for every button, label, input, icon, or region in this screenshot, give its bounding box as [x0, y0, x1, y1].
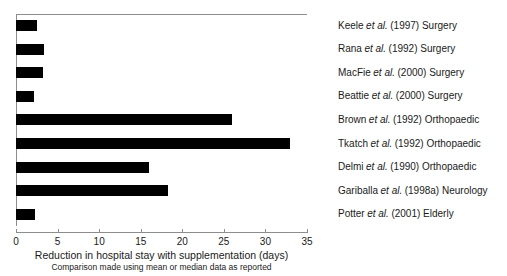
x-axis-title: Reduction in hospital stay with suppleme… [16, 249, 307, 262]
study-year-setting: (2001) Elderly [391, 208, 453, 220]
study-author: Delmi [338, 161, 364, 173]
x-axis-tick [265, 229, 266, 233]
bar-row [16, 85, 307, 109]
x-axis-tick-label: 20 [177, 236, 188, 248]
bar [16, 209, 35, 220]
x-axis-subtitle: Comparison made using mean or median dat… [16, 262, 307, 273]
bar-row [16, 179, 307, 203]
x-axis-tick [58, 229, 59, 233]
bar-row [16, 202, 307, 226]
study-author: Beattie [338, 90, 369, 102]
x-axis-tick [307, 229, 308, 233]
bar-row [16, 155, 307, 179]
bar [16, 185, 168, 196]
study-year-setting: (1998a) Neurology [405, 185, 488, 197]
study-author: Potter [338, 208, 365, 220]
study-year-setting: (1990) Orthopaedic [390, 161, 476, 173]
study-year-setting: (1992) Surgery [389, 43, 456, 55]
study-author: MacFie [338, 67, 371, 79]
plot-area [16, 14, 307, 226]
x-axis-tick [224, 229, 225, 233]
bar [16, 114, 232, 125]
x-axis-tick-label: 5 [55, 236, 61, 248]
study-year-setting: (2000) Surgery [397, 67, 464, 79]
study-etal: et al. [362, 43, 389, 55]
study-label: Potteret al.(2001) Elderly [338, 202, 507, 226]
bar-row [16, 108, 307, 132]
study-label: Gariballaet al.(1998a) Neurology [338, 179, 507, 203]
study-label: MacFieet al.(2000) Surgery [338, 61, 507, 85]
study-etal: et al. [378, 185, 405, 197]
study-label: Brownet al.(1992) Orthopaedic [338, 108, 507, 132]
x-axis-tick-label: 15 [135, 236, 146, 248]
study-label: Beattieet al.(2000) Surgery [338, 85, 507, 109]
study-label: Keeleet al.(1997) Surgery [338, 14, 507, 38]
x-axis-tick-label: 30 [260, 236, 271, 248]
x-axis-tick [16, 229, 17, 233]
study-author: Tkatch [338, 138, 368, 150]
study-label: Tkatchet al.(1992) Orthopaedic [338, 132, 507, 156]
x-axis: 05101520253035 [16, 232, 307, 233]
x-axis-tick-label: 0 [13, 236, 19, 248]
study-author: Keele [338, 20, 364, 32]
study-label: Ranaet al.(1992) Surgery [338, 38, 507, 62]
study-author: Gariballa [338, 185, 378, 197]
study-etal: et al. [364, 161, 391, 173]
study-year-setting: (1992) Orthopaedic [395, 138, 481, 150]
study-etal: et al. [366, 114, 393, 126]
study-etal: et al. [368, 138, 395, 150]
bar-row [16, 38, 307, 62]
x-axis-tick-label: 25 [218, 236, 229, 248]
study-author: Rana [338, 43, 362, 55]
bar-series [16, 14, 307, 226]
x-axis-tick [99, 229, 100, 233]
bar [16, 44, 44, 55]
study-year-setting: (2000) Surgery [396, 90, 463, 102]
study-etal: et al. [369, 90, 396, 102]
bar [16, 20, 37, 31]
study-etal: et al. [364, 20, 391, 32]
study-author: Brown [338, 114, 366, 126]
x-axis-tick [182, 229, 183, 233]
bar-chart-figure: 05101520253035 Reduction in hospital sta… [0, 0, 507, 276]
bar [16, 138, 290, 149]
study-label: Delmiet al.(1990) Orthopaedic [338, 155, 507, 179]
bar [16, 162, 149, 173]
bar-row [16, 61, 307, 85]
study-etal: et al. [365, 208, 392, 220]
x-axis-tick-label: 35 [301, 236, 312, 248]
x-axis-tick [141, 229, 142, 233]
study-year-setting: (1992) Orthopaedic [393, 114, 479, 126]
study-label-list: Keeleet al.(1997) SurgeryRanaet al.(1992… [338, 14, 507, 226]
bar [16, 67, 43, 78]
study-year-setting: (1997) Surgery [390, 20, 457, 32]
study-etal: et al. [371, 67, 398, 79]
x-axis-tick-label: 10 [94, 236, 105, 248]
bar-row [16, 132, 307, 156]
bar-row [16, 14, 307, 38]
bar [16, 91, 34, 102]
